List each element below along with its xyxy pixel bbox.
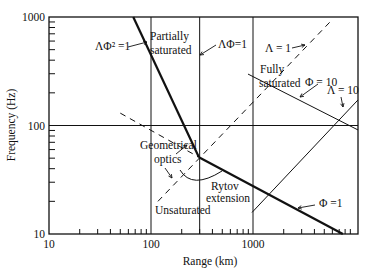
y-tick-label: 1000 xyxy=(22,11,45,23)
rytov-extension-arc xyxy=(180,170,222,180)
y-tick-label: 100 xyxy=(28,120,46,132)
annotation-label: Geometrical xyxy=(140,139,197,151)
x-tick-label: 1000 xyxy=(242,238,265,250)
annotation-label: saturated xyxy=(150,44,192,56)
y-tick-label: 10 xyxy=(34,228,46,240)
annotation-label: Unsaturated xyxy=(155,204,211,216)
annotation-label: Partially xyxy=(150,30,189,43)
boundary-line xyxy=(252,100,358,213)
annotation-label: optics xyxy=(154,153,182,166)
annotation-label: ΛΦ=1 xyxy=(218,38,247,50)
x-axis-label: Range (km) xyxy=(183,255,238,268)
annotation-label: Λ = 1 xyxy=(265,42,291,54)
annotation-label: ΛΦ² =1 xyxy=(95,40,131,52)
y-axis-label: Frequency (Hz) xyxy=(5,89,18,162)
annotation-label: extension xyxy=(206,192,250,204)
annotation-arrow xyxy=(200,45,216,55)
log-log-regime-chart: 101001000101001000 ΛΦ² =1Partiallysatura… xyxy=(0,0,371,274)
annotation-label: Λ = 10 xyxy=(327,84,359,96)
annotation-label: Fully xyxy=(260,63,285,76)
annotation-label: saturated xyxy=(259,77,301,89)
annotations: ΛΦ² =1PartiallysaturatedΛΦ=1Λ = 1Fullysa… xyxy=(95,30,359,216)
annotation-label: Φ =1 xyxy=(319,197,343,209)
x-tick-label: 10 xyxy=(43,238,55,250)
x-tick-label: 100 xyxy=(142,238,160,250)
